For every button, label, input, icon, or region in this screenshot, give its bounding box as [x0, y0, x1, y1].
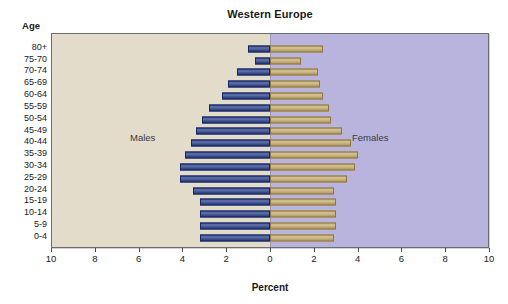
x-tick-label-6: 6	[124, 253, 154, 264]
bar-row	[52, 78, 488, 90]
bar-female-0-4	[270, 234, 334, 241]
x-tick-label-8: 8	[80, 253, 110, 264]
age-tick-5-9: 5-9	[0, 219, 47, 231]
x-tick-label-6: 6	[386, 253, 416, 264]
x-tick-mark	[139, 248, 140, 252]
bar-female-80+	[270, 45, 323, 52]
age-tick-40-44: 40-44	[0, 136, 47, 148]
bar-female-55-59	[270, 104, 329, 111]
bar-male-0-4	[200, 234, 270, 241]
bar-row	[52, 149, 488, 161]
bar-female-35-39	[270, 152, 358, 159]
bar-row	[52, 220, 488, 232]
x-tick-label-4: 4	[343, 253, 373, 264]
bar-row	[52, 90, 488, 102]
age-tick-55-59: 55-59	[0, 101, 47, 113]
age-tick-65-69: 65-69	[0, 77, 47, 89]
bar-female-75-70	[270, 57, 301, 64]
x-tick-label-10: 10	[474, 253, 504, 264]
bar-row	[52, 208, 488, 220]
bar-male-30-34	[180, 163, 270, 170]
age-tick-80+: 80+	[0, 42, 47, 54]
bar-female-45-49	[270, 128, 342, 135]
x-tick-mark	[401, 248, 402, 252]
bar-male-10-14	[200, 211, 270, 218]
bar-male-50-54	[202, 116, 270, 123]
age-tick-70-74: 70-74	[0, 65, 47, 77]
x-tick-label-10: 10	[36, 253, 66, 264]
age-tick-60-64: 60-64	[0, 89, 47, 101]
bar-row	[52, 185, 488, 197]
x-tick-mark	[489, 248, 490, 252]
legend-label-females: Females	[352, 132, 388, 143]
x-tick-mark	[314, 248, 315, 252]
age-tick-35-39: 35-39	[0, 148, 47, 160]
bar-female-70-74	[270, 69, 318, 76]
bar-row	[52, 102, 488, 114]
x-tick-mark	[226, 248, 227, 252]
bar-male-75-70	[255, 57, 270, 64]
x-tick-mark	[270, 248, 271, 252]
x-tick-mark	[358, 248, 359, 252]
x-tick-label-8: 8	[430, 253, 460, 264]
bar-male-5-9	[200, 222, 270, 229]
age-axis-tick-labels: 80+75-7070-7465-6960-6455-5950-5445-4940…	[0, 33, 47, 248]
bar-male-65-69	[228, 81, 270, 88]
bar-male-35-39	[185, 152, 270, 159]
x-tick-mark	[51, 248, 52, 252]
x-tick-label-4: 4	[167, 253, 197, 264]
bar-male-20-24	[193, 187, 270, 194]
bar-female-60-64	[270, 93, 323, 100]
chart-title: Western Europe	[51, 8, 489, 20]
bar-male-70-74	[237, 69, 270, 76]
age-tick-75-70: 75-70	[0, 54, 47, 66]
legend-label-males: Males	[130, 132, 155, 143]
bar-male-60-64	[222, 93, 270, 100]
bar-male-55-59	[209, 104, 270, 111]
x-tick-mark	[445, 248, 446, 252]
bar-female-30-34	[270, 163, 355, 170]
bar-row	[52, 161, 488, 173]
bar-row	[52, 173, 488, 185]
x-axis: 1086420246810	[51, 248, 489, 270]
bar-female-25-29	[270, 175, 347, 182]
bar-male-15-19	[200, 199, 270, 206]
bar-female-50-54	[270, 116, 331, 123]
x-tick-mark	[182, 248, 183, 252]
bar-row	[52, 114, 488, 126]
age-tick-0-4: 0-4	[0, 231, 47, 243]
bar-row	[52, 137, 488, 149]
bar-row	[52, 196, 488, 208]
age-tick-50-54: 50-54	[0, 113, 47, 125]
bar-female-5-9	[270, 222, 336, 229]
age-tick-25-29: 25-29	[0, 172, 47, 184]
x-tick-label-2: 2	[299, 253, 329, 264]
bar-female-65-69	[270, 81, 320, 88]
bar-female-10-14	[270, 211, 336, 218]
bar-female-20-24	[270, 187, 334, 194]
age-tick-20-24: 20-24	[0, 184, 47, 196]
x-axis-title: Percent	[51, 282, 489, 293]
bar-male-40-44	[191, 140, 270, 147]
x-tick-label-2: 2	[211, 253, 241, 264]
bar-row	[52, 232, 488, 244]
bar-male-45-49	[196, 128, 270, 135]
bar-row	[52, 43, 488, 55]
age-tick-15-19: 15-19	[0, 195, 47, 207]
x-tick-mark	[95, 248, 96, 252]
bar-row	[52, 126, 488, 138]
age-tick-30-34: 30-34	[0, 160, 47, 172]
bar-row	[52, 66, 488, 78]
x-tick-label-0: 0	[255, 253, 285, 264]
bar-female-15-19	[270, 199, 336, 206]
chart-plot-area: Males Females	[51, 33, 489, 248]
bar-male-25-29	[180, 175, 270, 182]
age-tick-10-14: 10-14	[0, 207, 47, 219]
bar-male-80+	[248, 45, 270, 52]
bar-rows	[52, 34, 488, 247]
bar-female-40-44	[270, 140, 351, 147]
bar-row	[52, 55, 488, 67]
age-tick-45-49: 45-49	[0, 125, 47, 137]
age-axis-title: Age	[14, 20, 48, 31]
